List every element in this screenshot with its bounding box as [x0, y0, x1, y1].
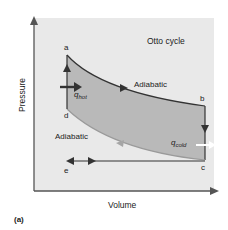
- otto-cycle-diagram: [0, 0, 228, 230]
- q-cold-sub: cold: [175, 142, 186, 148]
- point-label-d: d: [64, 112, 68, 120]
- x-axis-arrow-icon: [210, 187, 219, 195]
- panel-label: (a): [14, 216, 24, 224]
- x-axis-label: Volume: [108, 201, 136, 210]
- point-label-c: c: [201, 164, 205, 172]
- chart-title: Otto cycle: [147, 37, 185, 46]
- q-hot-sub: hot: [78, 94, 86, 100]
- point-label-b: b: [200, 95, 204, 103]
- y-axis-label: Pressure: [18, 78, 27, 112]
- point-label-a: a: [64, 44, 68, 52]
- point-label-e: e: [64, 167, 68, 175]
- process-label-upper: Adiabatic: [134, 81, 167, 89]
- q-hot-label: qhot: [74, 91, 87, 100]
- process-label-lower: Adiabatic: [55, 133, 88, 141]
- q-cold-label: qcold: [171, 139, 186, 148]
